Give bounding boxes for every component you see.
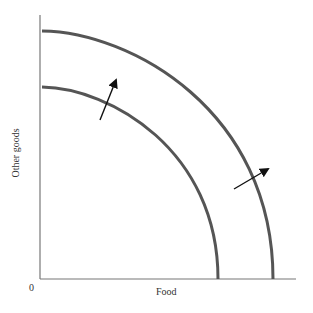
y-axis-label: Other goods: [10, 128, 21, 177]
origin-label: 0: [29, 282, 34, 293]
ppf-diagram: [0, 0, 313, 313]
x-axis-label: Food: [156, 286, 177, 297]
shifted-ppf-curve: [42, 31, 273, 279]
initial-ppf-curve: [42, 87, 218, 279]
